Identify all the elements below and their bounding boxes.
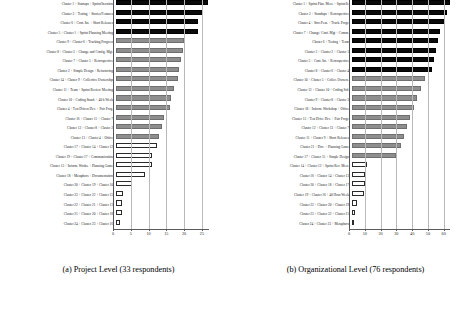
bar xyxy=(352,0,450,5)
bar xyxy=(352,76,425,81)
gridline xyxy=(365,0,366,229)
axis-tick-label: 0 xyxy=(348,232,350,236)
bar-track xyxy=(116,220,237,230)
bar-category-label: Cluster 20 + Cluster 18 + Cluster 17 xyxy=(237,184,352,187)
bar-row: Cluster 19 + Cluster 16 + 40 Hour Week xyxy=(237,191,474,201)
bar xyxy=(116,162,152,167)
axis-tick-label: 15 xyxy=(164,232,168,236)
bar xyxy=(352,153,396,158)
axis-tick-label: 0 xyxy=(112,232,114,236)
bar-category-label: Cluster 1 + Sprint Plan. Meet. + Sprint/… xyxy=(237,3,352,6)
axis-tick-label: 20 xyxy=(182,232,186,236)
bar-category-label: Cluster 7 + Change/ Conf. Mgt + Comm. xyxy=(237,32,352,35)
gridline xyxy=(396,0,397,229)
bar-category-label: Cluster 17 + Cluster 15 + Simple Design xyxy=(237,156,352,159)
bar-track xyxy=(116,181,237,191)
plot-area-a: Cluster 1 + Startups + Sprint/IterationC… xyxy=(0,0,237,243)
bar-row: Cluster 8 + Cluster 6 + Cluster 4 xyxy=(237,67,474,77)
bar-rows-a: Cluster 1 + Startups + Sprint/IterationC… xyxy=(0,0,237,229)
bar-track xyxy=(116,19,237,29)
gridline xyxy=(412,0,413,229)
bar-category-label: Cluster 2 + Standups + Retrospective xyxy=(237,13,352,16)
x-axis-a: 0510152025 xyxy=(0,229,237,243)
bar xyxy=(116,38,184,43)
bar-category-label: Cluster 14 + Cluster 12 + Sprint Rev. Me… xyxy=(237,165,352,168)
axis-tick-label: 5 xyxy=(130,232,132,236)
bar-category-label: Cluster 6 + Testing + Team xyxy=(237,41,352,44)
bar-row: Cluster 15 + Test Drive Dev. + Pair Prog… xyxy=(237,115,474,125)
bar-category-label: Cluster 11 + Team + Sprint Review Meetin… xyxy=(0,89,116,92)
bar-category-label: Cluster 4 + Test Driven Dev. + Pair Prog… xyxy=(0,108,116,111)
bar-category-label: Cluster 12 + Cluster 13 + Cluster 7 xyxy=(237,127,352,130)
bar-row: Cluster 11 + Cluster 9 + Short Releases xyxy=(237,134,474,144)
gridline xyxy=(113,0,114,229)
bar-row: Cluster 21 + Doc. + Planning Game xyxy=(237,143,474,153)
bar-category-label: Cluster 10 + Coding Stand. + 40 h Week xyxy=(0,99,116,102)
bar-category-label: Cluster 23 + Cluster 22 + Cluster 15 xyxy=(0,194,116,197)
bar xyxy=(352,86,421,91)
gridline xyxy=(149,0,150,229)
bar xyxy=(116,210,122,215)
bar-row: Cluster 10 + Cluster 5 + Collec. Owners. xyxy=(237,76,474,86)
bar xyxy=(116,153,152,158)
gridline xyxy=(202,0,203,229)
bar-track xyxy=(116,115,237,125)
bar-category-label: Cluster 16 + Cluster 14 + Cluster 13 xyxy=(237,175,352,178)
bar xyxy=(352,95,417,100)
bar-row: Cluster 6 + Testing + Team xyxy=(237,38,474,48)
bar-category-label: Cluster 21 + Cluster 20 + Cluster 18 xyxy=(0,213,116,216)
bar xyxy=(352,143,401,148)
bar-row: Cluster 22 + Cluster 20 + Cluster 19 xyxy=(237,200,474,210)
bar xyxy=(116,134,159,139)
caption-panel-a: (a) Project Level (33 respondents) xyxy=(0,265,237,276)
bar xyxy=(116,48,183,53)
bar-category-label: Cluster 6 + Cont. Int. + Short Releases xyxy=(0,22,116,25)
bar xyxy=(116,76,178,81)
bar-track xyxy=(116,172,237,182)
bar-category-label: Cluster 4 + Stor./Feat. + Track. Progr. xyxy=(237,22,352,25)
bar-category-label: Cluster 22 + Cluster 21 + Cluster 13 xyxy=(0,204,116,207)
bar-category-label: Cluster 16 + Cluster 11 + Cluster 7 xyxy=(0,118,116,121)
bar-category-label: Cluster 15 + Inform. Works. + Planning G… xyxy=(0,165,116,168)
bar-track xyxy=(116,48,237,58)
bar-category-label: Cluster 14 + Cluster 9 + Collective Owne… xyxy=(0,79,116,82)
bar xyxy=(116,191,123,196)
axis-tick-label: 10 xyxy=(146,232,150,236)
bar-track xyxy=(116,76,237,86)
bar-category-label: Cluster 23 + Cluster 22 + Cluster 21 xyxy=(237,213,352,216)
bar-row: Cluster 13 + Cluster 10 + Coding Std. xyxy=(237,86,474,96)
axis-tick-label: 10 xyxy=(363,232,367,236)
bar-track xyxy=(116,38,237,48)
bar-track xyxy=(116,210,237,220)
bar-category-label: Cluster 5 + Cluster 1 + Sprint Planning … xyxy=(0,32,116,35)
gridline xyxy=(131,0,132,229)
bar-row: Cluster 23 + Cluster 22 + Cluster 21 xyxy=(237,210,474,220)
x-axis-b: 0102030405060 xyxy=(237,229,474,243)
bar-track xyxy=(116,105,237,115)
panel-project-level: Cluster 1 + Startups + Sprint/IterationC… xyxy=(0,0,237,265)
bar-category-label: Cluster 9 + Cluster 6 + Tracking Progres… xyxy=(0,41,116,44)
bar xyxy=(116,67,179,72)
bar-category-label: Cluster 10 + Cluster 5 + Collec. Owners. xyxy=(237,79,352,82)
bar xyxy=(116,200,122,205)
bar-row: Cluster 18 + Inform. Workshop + Office xyxy=(237,105,474,115)
bar-category-label: Cluster 21 + Doc. + Planning Game xyxy=(237,146,352,149)
figure-two-panel-cluster-bar-chart: Cluster 1 + Startups + Sprint/IterationC… xyxy=(0,0,474,310)
bar-category-label: Cluster 9 + Cluster 8 + Cluster 3 xyxy=(237,99,352,102)
bar xyxy=(116,220,120,225)
bar xyxy=(116,143,157,148)
gridline xyxy=(349,0,350,229)
bar-row: Cluster 1 + Sprint Plan. Meet. + Sprint/… xyxy=(237,0,474,10)
bar-track xyxy=(116,200,237,210)
bar-category-label: Cluster 3 + Cluster 2 + Cluster 1 xyxy=(237,51,352,54)
gridline xyxy=(428,0,429,229)
bar-category-label: Cluster 12 + Cluster 8 + Cluster 2 xyxy=(0,127,116,130)
bar xyxy=(352,210,355,215)
bar-category-label: Cluster 19 + Cluster 17 + Communication xyxy=(0,156,116,159)
bar-row: Cluster 12 + Cluster 13 + Cluster 7 xyxy=(237,124,474,134)
gridline xyxy=(184,0,185,229)
axis-tick-label: 30 xyxy=(394,232,398,236)
bar-category-label: Cluster 3 + Testing + Stories/Features xyxy=(0,13,116,16)
bar-row: Cluster 5 + Cont. Int. + Retrospective xyxy=(237,57,474,67)
bar xyxy=(116,19,198,24)
